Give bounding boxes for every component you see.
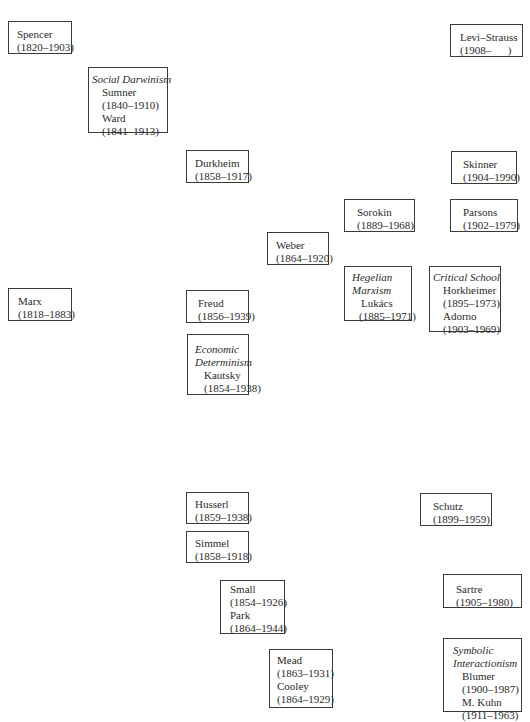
school-label: Marxism [352,284,411,297]
node-name: Weber [276,239,328,252]
node-years: (1863–1931) [277,667,332,680]
school-label: Hegelian [352,271,411,284]
node-economic-determinism: Economic Determinism Kautsky (1854–1938) [187,334,249,395]
node-years: (1908– ) [460,44,522,57]
node-years: (1858–1917) [195,170,248,183]
school-label: Determinism [195,356,248,369]
node-mead-cooley: Mead (1863–1931) Cooley (1864–1929) [269,649,333,708]
node-marx: Marx (1818–1883) [8,288,72,321]
node-small-park: Small (1854–1926) Park (1864–1944) [220,580,285,634]
node-parsons: Parsons (1902–1979) [450,199,518,232]
node-husserl: Husserl (1859–1938) [186,492,249,524]
node-simmel: Simmel (1858–1918) [186,531,249,563]
node-name: Kautsky [195,369,248,382]
node-years: (1858–1918) [195,550,248,563]
node-years: (1864–1929) [277,693,332,706]
node-name: Sumner [97,86,167,99]
node-years: (1854–1926) [230,596,284,609]
node-name: M. Kuhn [453,696,521,709]
node-weber: Weber (1864–1920) [267,232,329,265]
node-name: Park [230,609,284,622]
node-symbolic-interactionism: Symbolic Interactionism Blumer (1900–198… [443,638,522,712]
school-label: Social Darwinism [92,73,167,86]
node-spencer: Spencer (1820–1903) [8,21,72,54]
node-years: (1818–1883) [18,308,71,321]
node-schutz: Schutz (1899–1959) [420,493,492,526]
node-sartre: Sartre (1905–1980) [443,574,522,608]
node-years: (1864–1944) [230,622,284,635]
node-name: Sorokin [357,206,414,219]
node-name: Marx [18,295,71,308]
node-hegelian-marxism: Hegelian Marxism Lukács (1885–1971) [344,266,412,321]
node-critical-school: Critical School Horkheimer (1895–1973) A… [429,266,501,332]
node-name: Durkheim [195,157,248,170]
node-name: Levi–Strauss [460,31,522,44]
node-name: Sartre [456,583,521,596]
node-years: (1840–1910) [97,99,167,112]
node-sorokin: Sorokin (1889–1968) [344,199,415,232]
node-name: Horkheimer [438,284,500,297]
node-years: (1900–1987) [453,683,521,696]
node-name: Freud [198,297,248,310]
node-name: Ward [97,112,167,125]
school-label: Symbolic [453,644,521,657]
node-name: Parsons [463,206,517,219]
node-name: Simmel [195,537,248,550]
node-name: Blumer [453,670,521,683]
node-years: (1895–1973) [438,297,500,310]
school-label: Economic [195,343,248,356]
node-name: Mead [277,654,332,667]
node-years: (1856–1939) [198,310,248,323]
node-name: Skinner [463,158,516,171]
node-years: (1904–1990) [463,171,516,184]
node-name: Small [230,583,284,596]
node-name: Adorno [438,310,500,323]
node-years: (1854–1938) [195,382,248,395]
node-skinner: Skinner (1904–1990) [451,151,517,184]
school-label: Interactionism [453,657,521,670]
node-years: (1889–1968) [357,219,414,232]
node-name: Cooley [277,680,332,693]
node-years: (1905–1980) [456,596,521,609]
node-name: Husserl [195,498,248,511]
node-name: Schutz [433,500,491,513]
node-years: (1864–1920) [276,252,328,265]
node-freud: Freud (1856–1939) [186,290,249,323]
node-name: Lukács [357,297,411,310]
node-years: (1841–1913) [97,125,167,138]
node-years: (1911–1963) [453,709,521,722]
node-durkheim: Durkheim (1858–1917) [186,150,249,183]
node-years: (1859–1938) [195,511,248,524]
node-social-darwinism: Social Darwinism Sumner (1840–1910) Ward… [88,67,168,133]
node-years: (1899–1959) [433,513,491,526]
node-years: (1902–1979) [463,219,517,232]
node-years: (1820–1903) [17,41,71,54]
node-years: (1885–1971) [357,310,411,323]
node-name: Spencer [17,28,71,41]
node-years: (1903–1969) [438,323,500,336]
node-levi-strauss: Levi–Strauss (1908– ) [450,24,523,57]
school-label: Critical School [433,271,500,284]
